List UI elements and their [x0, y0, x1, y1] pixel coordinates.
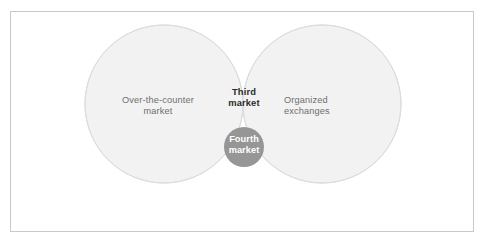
inner-region-label-line1: Fourth: [214, 134, 274, 145]
right-set-label-line1: Organized: [284, 95, 394, 106]
venn-diagram-figure: Over-the-counter market Organized exchan…: [0, 0, 484, 244]
left-set-label-line1: Over-the-counter: [98, 95, 218, 106]
intersection-label: Third market: [214, 86, 274, 109]
intersection-label-line2: market: [214, 97, 274, 108]
venn-diagram-canvas: [0, 0, 484, 244]
inner-region-label: Fourth market: [214, 134, 274, 156]
right-set-label-line2: exchanges: [284, 106, 394, 117]
inner-region-label-line2: market: [214, 145, 274, 156]
left-set-label: Over-the-counter market: [98, 95, 218, 117]
right-set-label: Organized exchanges: [284, 95, 394, 117]
intersection-label-line1: Third: [214, 86, 274, 97]
left-set-label-line2: market: [98, 106, 218, 117]
